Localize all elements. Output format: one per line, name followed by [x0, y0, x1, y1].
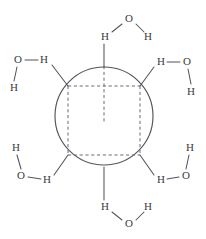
atom-label-hydrogen: H	[186, 141, 194, 153]
oh-bond-lower-left-horizontal	[28, 177, 41, 179]
atom-label-oxygen: O	[125, 12, 133, 24]
atom-label-oxygen: O	[183, 55, 191, 67]
oh-bond-upper-right-vertical	[188, 69, 191, 84]
atom-label-oxygen: O	[125, 217, 133, 229]
atom-label-hydrogen: H	[12, 141, 20, 153]
bond-to-water-lower-right	[140, 155, 154, 175]
hydration-diagram-canvas: O H H O H H H O H H O H	[0, 0, 206, 239]
oh-bond-upper-left-vertical	[14, 67, 17, 81]
atom-label-hydrogen: H	[144, 30, 152, 42]
oh-bond-bottom-right	[136, 212, 144, 220]
atom-label-hydrogen: H	[10, 81, 18, 93]
oh-bond-lower-left-vertical	[17, 155, 21, 169]
water-molecule-lower-left: H O H	[12, 141, 51, 185]
water-molecule-lower-right: H O H	[157, 141, 194, 185]
atom-label-oxygen: O	[17, 169, 25, 181]
coordination-cube	[68, 66, 140, 155]
central-sphere-icon	[55, 67, 153, 165]
atom-label-hydrogen: H	[40, 53, 48, 65]
oh-bond-lower-right-vertical	[186, 155, 189, 169]
atom-label-hydrogen: H	[157, 55, 165, 67]
atom-label-hydrogen: H	[101, 200, 109, 212]
water-molecule-upper-right: H O H	[157, 55, 195, 97]
water-molecule-top: O H H	[101, 12, 152, 42]
bond-to-water-lower-left	[54, 155, 68, 175]
hydration-diagram-figure: O H H O H H H O H H O H	[0, 0, 206, 239]
water-molecule-upper-left: O H H	[10, 53, 48, 93]
bond-to-water-upper-left	[52, 65, 68, 86]
atom-label-oxygen: O	[182, 169, 190, 181]
oh-bond-lower-right-horizontal	[167, 177, 179, 179]
bond-to-water-upper-right	[140, 67, 154, 86]
oh-bond-top-right	[136, 24, 144, 32]
atom-label-hydrogen: H	[187, 85, 195, 97]
oh-bond-bottom-left	[112, 212, 122, 220]
atom-label-hydrogen: H	[101, 30, 109, 42]
atom-label-oxygen: O	[14, 53, 22, 65]
water-molecule-bottom: H O H	[101, 200, 152, 229]
atom-label-hydrogen: H	[157, 173, 165, 185]
atom-label-hydrogen: H	[43, 173, 51, 185]
oh-bond-top-left	[112, 24, 122, 32]
atom-label-hydrogen: H	[144, 200, 152, 212]
